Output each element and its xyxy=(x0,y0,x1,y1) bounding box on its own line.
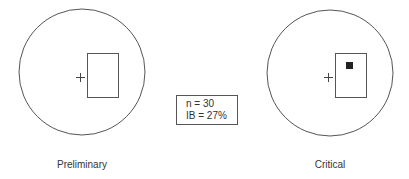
visual-field-circle xyxy=(267,10,393,136)
stats-box: n = 30 IB = 27% xyxy=(176,95,238,125)
panel-critical xyxy=(267,10,393,136)
ib-rate-text: IB = 27% xyxy=(186,110,237,122)
visual-field-circle xyxy=(19,9,145,135)
fixation-cross-icon xyxy=(324,73,333,82)
preliminary-label: Preliminary xyxy=(22,159,142,170)
diagram-canvas xyxy=(0,0,409,179)
filled-square-marker xyxy=(346,62,353,69)
fixation-cross-icon xyxy=(76,73,85,82)
target-rectangle xyxy=(336,54,367,98)
sample-size-text: n = 30 xyxy=(186,98,237,110)
critical-label: Critical xyxy=(270,159,390,170)
target-rectangle xyxy=(88,54,119,98)
panel-preliminary xyxy=(19,9,145,135)
